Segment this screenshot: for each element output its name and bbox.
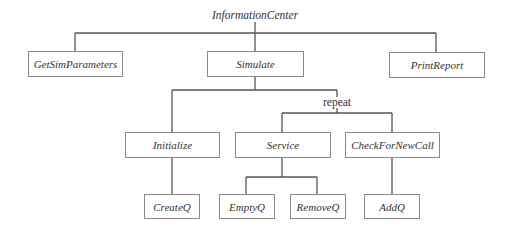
node-check-for-new-call: CheckForNewCall	[345, 132, 440, 158]
node-initialize: Initialize	[125, 132, 220, 158]
node-add-q: AddQ	[364, 194, 420, 219]
node-simulate: Simulate	[207, 51, 304, 77]
repeat-annotation: repeat	[323, 96, 351, 108]
node-print-report: PrintReport	[389, 52, 485, 78]
node-empty-q: EmptyQ	[219, 194, 275, 219]
node-remove-q: RemoveQ	[290, 194, 346, 219]
node-service: Service	[235, 132, 331, 158]
node-create-q: CreateQ	[144, 194, 200, 219]
node-information-center: InformationCenter	[212, 9, 298, 21]
node-get-sim-parameters: GetSimParameters	[28, 51, 123, 77]
